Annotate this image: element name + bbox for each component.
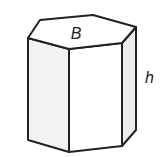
hexagonal-prism-diagram: B h xyxy=(0,0,160,157)
base-label: B xyxy=(71,25,82,42)
height-label: h xyxy=(145,69,154,86)
prism-front-face xyxy=(69,43,122,152)
prism-left-face xyxy=(28,38,69,152)
prism-right-face xyxy=(122,27,136,146)
